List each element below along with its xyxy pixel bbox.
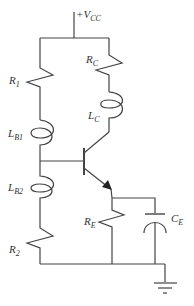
r2-label: R2 [8,243,20,258]
resistor-r2: R2 [8,212,53,264]
npn-transistor [84,128,112,198]
rc-label: RC [85,53,99,68]
inductor-lb1: LB1 [7,120,54,161]
lc-label: LC [87,109,100,124]
lb1-label: LB1 [7,127,23,142]
ground-icon [154,264,177,293]
circuit-diagram: +VCC R1 LB1 LB2 R2 RC LC [0,0,194,306]
inductor-lc: LC [87,92,123,128]
re-label: RE [83,215,96,230]
r1-label: R1 [8,74,20,89]
emitter-node-wire [112,198,155,213]
vcc-label: +VCC [76,8,101,23]
lb2-label: LB2 [7,181,23,196]
emitter-arrow-icon [102,180,112,190]
resistor-rc: RC [85,38,122,92]
capacitor-ce: CE [144,212,183,264]
resistor-r1: R1 [8,38,53,120]
ce-label: CE [171,212,183,227]
inductor-lb2: LB2 [7,161,54,212]
resistor-re: RE [83,198,124,264]
vcc-supply: +VCC [74,8,101,38]
